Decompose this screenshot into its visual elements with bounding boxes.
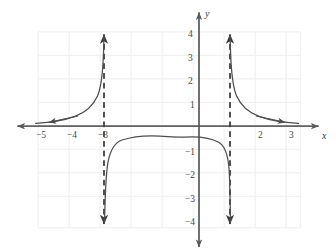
curve-left-branch-tail-arrow (49, 116, 78, 122)
x-axis-label: x (322, 131, 326, 141)
plot-canvas (0, 0, 336, 252)
x-tick-label-3: 3 (289, 131, 294, 141)
y-tick-label-1: 1 (190, 101, 195, 111)
y-axis-label: y (205, 9, 209, 19)
x-tick-label-2: 2 (258, 131, 263, 141)
x-tick-label--4: −4 (67, 131, 77, 141)
y-tick-label--3: −3 (185, 195, 195, 205)
y-tick-label--4: −4 (185, 218, 195, 228)
y-tick-label-3: 3 (188, 54, 193, 64)
y-tick-label--2: −2 (185, 171, 195, 181)
y-tick-label-4: 4 (188, 30, 193, 40)
x-tick-label--5: −5 (36, 131, 46, 141)
y-tick-label-2: 2 (188, 77, 193, 87)
math-graph-figure: −5 −4 −3 2 3 4 3 2 1 −1 −2 −3 −4 x y (0, 0, 336, 252)
curve-right-branch-tail-arrow (256, 116, 285, 122)
x-tick-label--3: −3 (98, 131, 108, 141)
curve-right-branch (230, 36, 299, 124)
y-tick-label--1: −1 (185, 148, 195, 158)
curve-left-branch (36, 36, 104, 124)
